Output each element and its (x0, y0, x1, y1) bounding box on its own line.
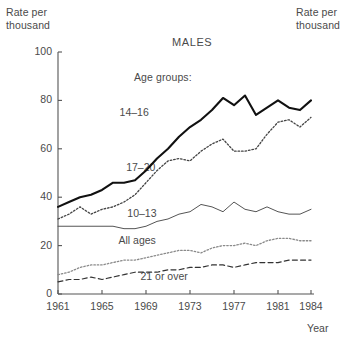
series-line-all-ages (58, 238, 311, 274)
chart-figure: Rate per thousand Rate per thousand MALE… (0, 0, 351, 346)
series-line-14-16 (58, 96, 311, 207)
plot-canvas (0, 0, 351, 346)
series-line-10-13 (58, 202, 311, 229)
series-line-21-or-over (58, 260, 311, 282)
